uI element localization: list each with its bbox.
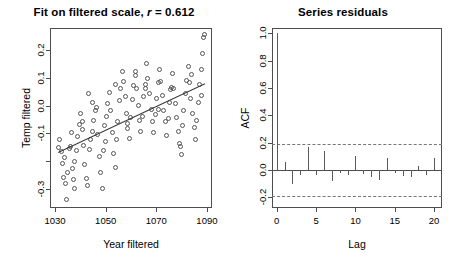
- scatter-y-tick-label: -0.1: [34, 118, 48, 148]
- scatter-y-tick-label: 0.2: [34, 35, 48, 65]
- scatter-y-tick-label: -0.3: [34, 174, 48, 204]
- acf-panel: Series residuals 05101520 1.00.80.60.40.…: [228, 0, 449, 267]
- acf-y-axis-label: ACF: [239, 53, 251, 183]
- acf-y-ticks: 1.00.80.60.40.20.0-0.2: [228, 0, 449, 267]
- scatter-y-tick: [46, 161, 50, 162]
- scatter-panel: Fit on filtered scale, r = 0.612 1030105…: [0, 0, 228, 267]
- acf-y-tick-label: -0.2: [256, 181, 270, 213]
- scatter-y-ticks: 0.20.10.0-0.1-0.3: [0, 0, 228, 267]
- scatter-y-axis-label: Temp filtered: [20, 48, 32, 188]
- scatter-y-tick-label: 0.0: [34, 91, 48, 121]
- scatter-y-tick-label: 0.1: [34, 63, 48, 93]
- figure-root: Fit on filtered scale, r = 0.612 1030105…: [0, 0, 449, 267]
- scatter-x-axis-label: Year filtered: [50, 238, 212, 250]
- acf-x-axis-label: Lag: [272, 238, 442, 250]
